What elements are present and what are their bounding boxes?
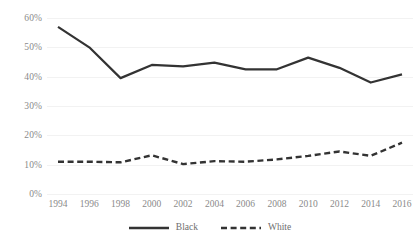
- line-chart: 0%10%20%30%40%50%60% 1994199619982000200…: [0, 0, 419, 247]
- legend-swatch-dashed-icon: [220, 224, 262, 232]
- y-tick-label: 30%: [2, 101, 42, 111]
- series-lines: [47, 18, 413, 194]
- series-line-black: [58, 27, 402, 83]
- legend-label: Black: [176, 222, 198, 233]
- y-tick-label: 0%: [2, 189, 42, 199]
- chart-legend: BlackWhite: [0, 222, 419, 233]
- y-tick-label: 50%: [2, 42, 42, 52]
- legend-swatch-solid-icon: [128, 224, 170, 232]
- legend-label: White: [268, 222, 291, 233]
- plot-area: [47, 18, 413, 194]
- series-line-white: [58, 143, 402, 164]
- y-tick-label: 60%: [2, 13, 42, 23]
- legend-item-black[interactable]: Black: [128, 222, 198, 233]
- gridline-0: [47, 194, 413, 195]
- legend-item-white[interactable]: White: [220, 222, 291, 233]
- x-tick-label: 2016: [382, 199, 419, 210]
- y-tick-label: 20%: [2, 130, 42, 140]
- y-tick-label: 10%: [2, 160, 42, 170]
- y-tick-label: 40%: [2, 72, 42, 82]
